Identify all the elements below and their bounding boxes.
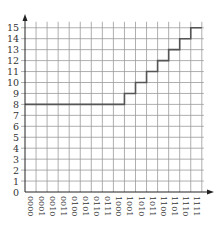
y-tick-label: 15 <box>7 22 19 33</box>
step-chart: 0123456789101112131415 00000001001000110… <box>0 0 221 229</box>
y-tick-label: 11 <box>7 66 19 77</box>
y-tick-label: 2 <box>13 165 19 176</box>
x-tick-label: 1110 <box>181 196 190 216</box>
y-tick-label: 0 <box>13 187 19 198</box>
x-tick-label: 0111 <box>103 196 112 216</box>
x-tick-label: 0010 <box>48 196 57 216</box>
x-tick-label: 1101 <box>170 196 179 216</box>
x-tick-label: 1010 <box>137 196 146 216</box>
y-axis-arrow-icon <box>23 14 28 21</box>
x-tick-label: 0100 <box>70 196 79 216</box>
x-tick-label: 0001 <box>37 196 46 216</box>
y-tick-label: 5 <box>13 132 19 143</box>
x-tick-label: 1100 <box>159 196 168 216</box>
y-tick-label: 3 <box>13 154 19 165</box>
x-tick-label: 0110 <box>92 196 101 216</box>
grid-lines <box>21 22 204 192</box>
x-axis-arrow-icon <box>207 190 214 195</box>
x-tick-label: 1000 <box>114 196 123 216</box>
x-axis-tick-labels: 0000000100100011010001010110011110001001… <box>26 196 201 216</box>
x-tick-label: 1001 <box>125 196 134 216</box>
y-tick-label: 1 <box>13 176 19 187</box>
x-tick-label: 0011 <box>59 196 68 216</box>
y-tick-label: 12 <box>7 55 19 66</box>
y-tick-label: 10 <box>7 77 19 88</box>
y-tick-label: 13 <box>7 44 19 55</box>
x-tick-label: 0101 <box>81 196 90 216</box>
y-axis-tick-labels: 0123456789101112131415 <box>7 22 19 197</box>
y-tick-label: 9 <box>13 88 19 99</box>
y-tick-label: 4 <box>13 143 19 154</box>
y-tick-label: 6 <box>13 121 19 132</box>
x-tick-label: 0000 <box>26 196 35 216</box>
y-tick-label: 7 <box>13 110 19 121</box>
x-tick-label: 1011 <box>148 196 157 216</box>
y-tick-label: 8 <box>13 99 19 110</box>
y-tick-label: 14 <box>7 33 19 44</box>
x-tick-label: 1111 <box>192 196 201 216</box>
